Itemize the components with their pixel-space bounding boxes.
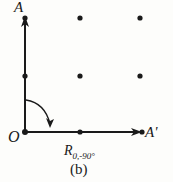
figure-caption: (b) — [70, 161, 88, 178]
transform-label: R0,-90° — [64, 143, 95, 161]
point-label-A-prime: A' — [145, 124, 157, 141]
vector-OA — [21, 15, 29, 132]
point-label-O: O — [8, 128, 20, 146]
transform-label-subscript: 0,-90° — [73, 151, 95, 161]
vector-OA-prime — [25, 128, 145, 136]
rotation-diagram: A O A' R0,-90° (b) — [0, 0, 173, 182]
rotation-arc-arrow-icon — [26, 100, 54, 128]
transform-label-main: R — [64, 143, 73, 158]
point-label-A: A — [14, 0, 23, 16]
grid-dots — [22, 15, 143, 135]
